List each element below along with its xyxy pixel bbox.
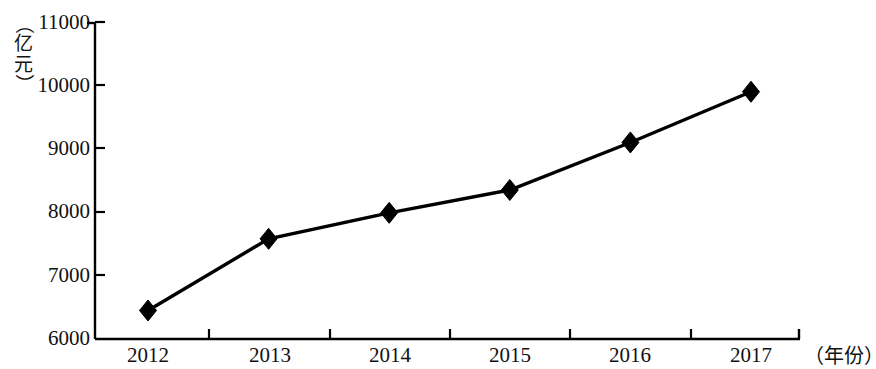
y-axis-ticks: [95, 22, 105, 275]
data-point-marker-2017: [743, 81, 760, 102]
data-point-marker-2014: [381, 202, 398, 223]
x-axis-ticks: [209, 329, 691, 339]
data-point-marker-2013: [260, 228, 277, 249]
data-series-line: [148, 92, 751, 311]
plot-area: [0, 0, 876, 369]
data-point-marker-2016: [622, 132, 639, 153]
line-chart: （ 亿 元 ） 11000 10000 9000 8000 7000 6000 …: [0, 0, 876, 369]
data-point-marker-2015: [501, 180, 518, 201]
data-point-marker-2012: [140, 300, 157, 321]
